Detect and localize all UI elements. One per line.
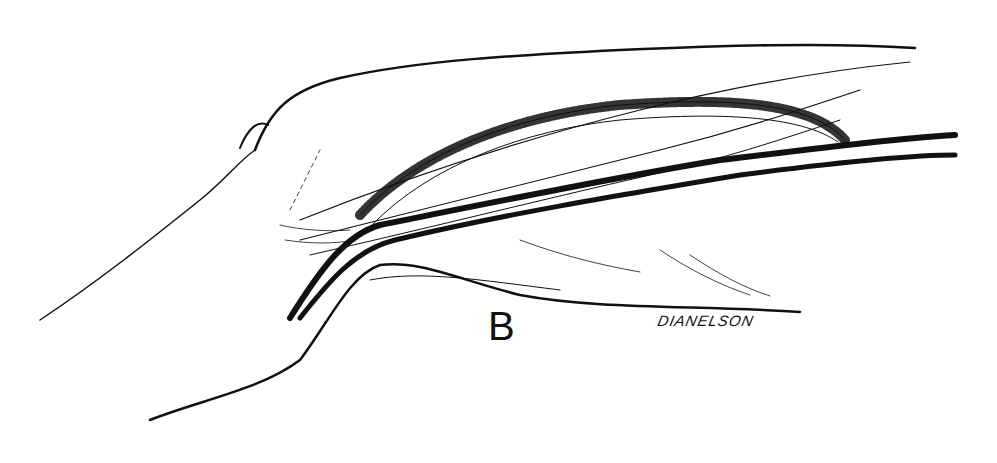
illustration-canvas: B DIANELSON — [0, 0, 997, 463]
anatomical-drawing — [0, 0, 997, 463]
panel-label: B — [488, 306, 515, 346]
artist-signature: DIANELSON — [656, 312, 755, 329]
